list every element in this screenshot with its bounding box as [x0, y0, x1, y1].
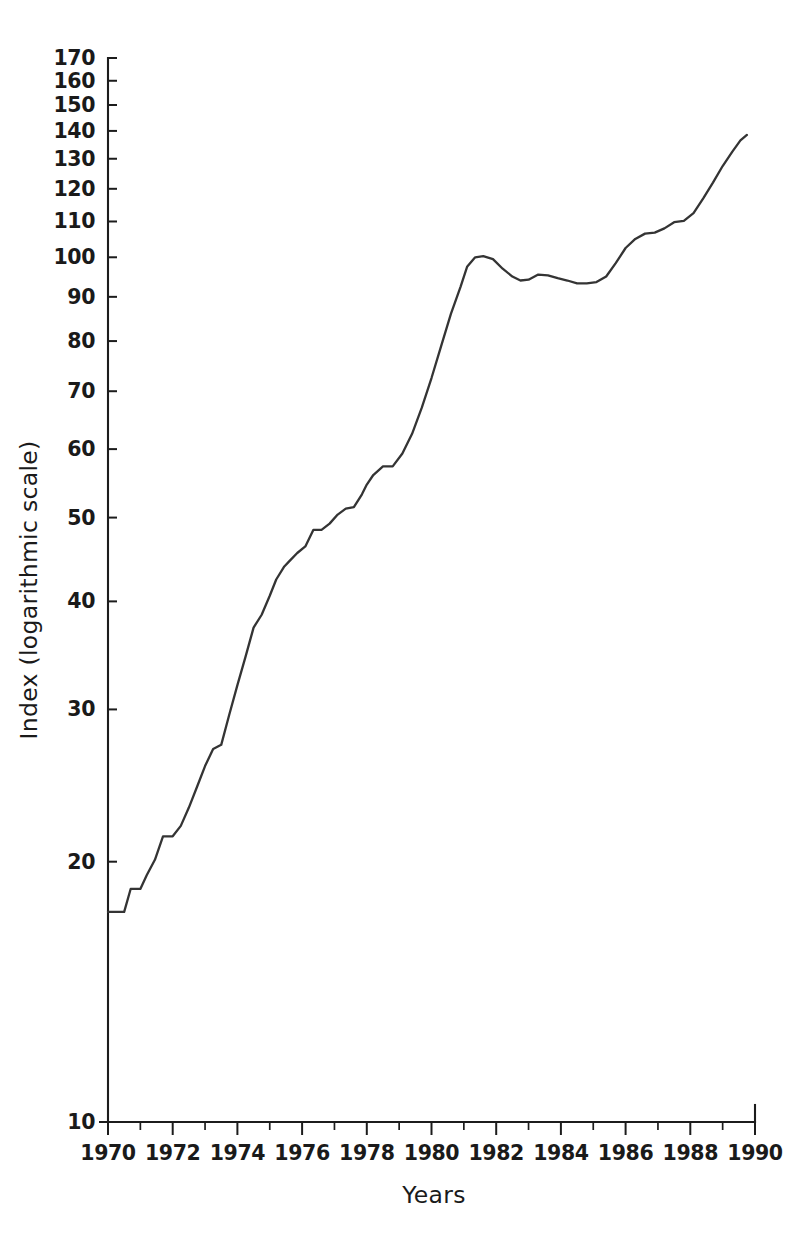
x-tick-label: 1978: [339, 1141, 394, 1165]
y-tick-label: 50: [67, 506, 95, 530]
y-tick-label: 120: [53, 177, 95, 201]
data-series-line: [108, 135, 747, 912]
y-tick-label: 130: [53, 147, 95, 171]
y-tick-label: 10: [67, 1110, 95, 1134]
y-tick-label: 140: [53, 119, 95, 143]
x-tick-label: 1982: [468, 1141, 523, 1165]
x-tick-label: 1990: [727, 1141, 783, 1165]
x-tick-label: 1976: [274, 1141, 330, 1165]
y-tick-label: 20: [67, 850, 95, 874]
y-tick-label: 70: [67, 379, 95, 403]
x-axis-tick-labels: 1970197219741976197819801982198419861988…: [80, 1141, 783, 1165]
line-chart: 1020304050607080901001101201301401501601…: [0, 0, 803, 1253]
chart-figure: 1020304050607080901001101201301401501601…: [0, 0, 803, 1253]
x-tick-label: 1986: [598, 1141, 654, 1165]
y-tick-label: 150: [53, 93, 95, 117]
y-tick-label: 170: [53, 46, 95, 70]
y-tick-label: 90: [67, 285, 95, 309]
x-tick-label: 1974: [210, 1141, 266, 1165]
y-tick-label: 60: [67, 437, 95, 461]
y-tick-label: 110: [53, 209, 95, 233]
x-tick-label: 1984: [533, 1141, 589, 1165]
y-tick-label: 80: [67, 329, 95, 353]
x-axis-ticks: [108, 1122, 755, 1135]
y-tick-label: 100: [53, 245, 95, 269]
y-axis-title: Index (logarithmic scale): [15, 441, 43, 740]
y-axis-tick-labels: 1020304050607080901001101201301401501601…: [53, 46, 95, 1134]
x-axis-title: Years: [401, 1181, 466, 1209]
x-tick-label: 1972: [145, 1141, 200, 1165]
x-tick-label: 1988: [663, 1141, 718, 1165]
y-tick-label: 160: [53, 69, 95, 93]
x-tick-label: 1980: [404, 1141, 460, 1165]
x-tick-label: 1970: [80, 1141, 136, 1165]
y-tick-label: 30: [67, 697, 95, 721]
y-tick-label: 40: [67, 589, 95, 613]
